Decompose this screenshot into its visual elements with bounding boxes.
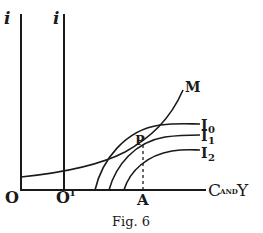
second-origin-label: O [56, 188, 70, 207]
origin-label: O [5, 188, 19, 207]
figure-caption: Fig. 6 [112, 214, 150, 229]
curve-i2-subscript: 2 [208, 152, 215, 163]
curve-i1-subscript: 1 [208, 135, 215, 146]
x-axis-label-y: Y [236, 180, 249, 200]
diagram-figure: i i M I 0 I 1 I 2 P O O 1 A C AND Y Fig.… [0, 0, 263, 233]
curve-i2-label: I [201, 145, 208, 161]
curve-i0 [95, 124, 200, 190]
second-axis-label: i [53, 8, 59, 28]
point-a-label: A [136, 191, 149, 209]
x-axis-label-and: AND [219, 187, 238, 196]
curve-m [21, 90, 183, 177]
left-axis-label: i [4, 8, 10, 28]
point-p-label: P [135, 133, 145, 148]
curve-i1-label: I [201, 128, 208, 144]
curve-i2 [124, 150, 200, 190]
second-origin-superscript: 1 [69, 187, 76, 198]
curve-i0-subscript: 0 [208, 124, 215, 135]
curve-m-label: M [185, 79, 201, 95]
